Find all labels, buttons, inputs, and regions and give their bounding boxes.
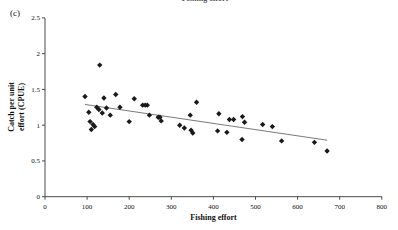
- y-tick-label: 1.5: [31, 86, 40, 94]
- data-point: [188, 112, 193, 117]
- x-tick-label: 800: [377, 203, 388, 211]
- data-point: [182, 125, 187, 130]
- data-point: [82, 94, 87, 99]
- scatter-plot: 00.511.522.50100200300400500600700800: [0, 0, 398, 230]
- data-point: [231, 117, 236, 122]
- data-point: [108, 112, 113, 117]
- data-point: [100, 110, 105, 115]
- figure-panel-c: Fishing effort (c) Catch per unit effort…: [0, 0, 398, 230]
- data-point: [324, 148, 329, 153]
- x-tick-label: 0: [43, 203, 47, 211]
- data-point: [239, 137, 244, 142]
- y-tick-label: 0.5: [31, 157, 40, 165]
- data-point: [215, 128, 220, 133]
- data-point: [177, 122, 182, 127]
- y-tick-label: 2: [37, 50, 41, 58]
- x-tick-label: 100: [82, 203, 93, 211]
- data-point: [224, 130, 229, 135]
- data-point: [86, 110, 91, 115]
- data-point: [194, 100, 199, 105]
- data-point: [97, 62, 102, 67]
- data-point: [270, 124, 275, 129]
- x-axis-title: Fishing effort: [45, 213, 382, 222]
- data-point: [132, 96, 137, 101]
- data-point: [312, 140, 317, 145]
- data-point: [242, 120, 247, 125]
- data-point: [216, 111, 221, 116]
- trend-line: [85, 104, 327, 140]
- x-tick-label: 500: [250, 203, 261, 211]
- data-point: [127, 119, 132, 124]
- x-tick-label: 300: [166, 203, 177, 211]
- y-tick-label: 2.5: [31, 14, 40, 22]
- data-point: [279, 138, 284, 143]
- y-tick-label: 0: [37, 193, 41, 201]
- data-point: [101, 95, 106, 100]
- y-tick-label: 1: [37, 122, 41, 130]
- x-tick-label: 200: [124, 203, 135, 211]
- data-point: [260, 122, 265, 127]
- data-point: [113, 92, 118, 97]
- x-tick-label: 400: [208, 203, 219, 211]
- x-tick-label: 600: [292, 203, 303, 211]
- data-point: [240, 114, 245, 119]
- x-tick-label: 700: [334, 203, 345, 211]
- data-point: [104, 105, 109, 110]
